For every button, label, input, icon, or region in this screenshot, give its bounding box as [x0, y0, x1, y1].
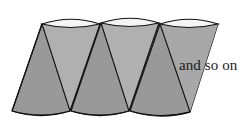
figure-page: and so on	[0, 0, 251, 129]
and-so-on-caption: and so on	[179, 56, 237, 75]
frustum-1-top-ellipse	[42, 19, 100, 27]
frustum-2-top-ellipse	[101, 18, 159, 26]
frustum-3-top-ellipse	[160, 19, 218, 27]
